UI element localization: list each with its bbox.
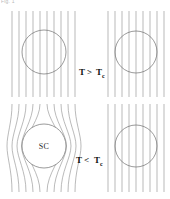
meissner-effect-figure: Fig. 1	[0, 0, 170, 199]
above-tc-operator: >	[87, 67, 92, 77]
field-lines-bottom-right	[108, 104, 164, 192]
field-line	[68, 104, 76, 192]
panel-bottom-left: SC	[7, 104, 81, 192]
panel-bottom-right	[108, 104, 164, 192]
sample-circle-top-left	[22, 30, 66, 74]
field-line	[7, 104, 12, 192]
label-above-tc: T > T c	[79, 67, 105, 79]
figure-canvas: SC T > T c T <	[0, 0, 170, 199]
label-below-tc: T < T c	[76, 155, 103, 167]
below-tc-operator: <	[84, 155, 89, 165]
field-lines-top-right	[108, 11, 164, 97]
sc-label: SC	[39, 142, 49, 151]
above-tc-t: T	[79, 67, 85, 77]
panel-top-left	[12, 11, 75, 97]
below-tc-t: T	[76, 155, 82, 165]
field-line	[12, 104, 19, 192]
below-tc-critical-subscript: c	[100, 161, 103, 167]
above-tc-critical-subscript: c	[102, 73, 105, 79]
panel-top-right	[108, 11, 164, 97]
field-lines-top-left	[12, 11, 75, 97]
